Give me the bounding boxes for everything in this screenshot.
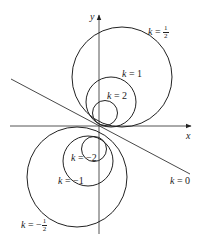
label-k-half: k = 12 [148, 25, 169, 40]
label-k-neg1: k = −1 [58, 176, 84, 186]
circle-k-2 [93, 101, 118, 126]
family-of-circles-diagram [0, 0, 200, 241]
label-k-0: k = 0 [170, 176, 190, 186]
label-k-1: k = 1 [122, 69, 142, 79]
label-k-2: k = 2 [107, 91, 127, 101]
x-axis-label: x [186, 131, 190, 141]
label-k-neg2: k = −2 [71, 153, 97, 163]
label-k-neg-half: k = −12 [21, 218, 47, 233]
y-axis-label: y [90, 12, 94, 22]
